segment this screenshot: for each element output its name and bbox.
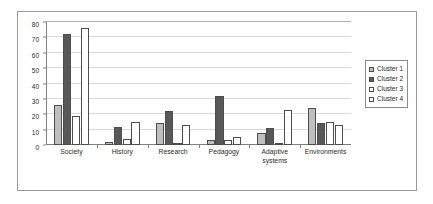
legend-item[interactable]: Cluster 3 [369,84,403,94]
legend-label: Cluster 1 [377,66,403,73]
bar[interactable] [275,143,283,145]
bar[interactable] [335,125,343,145]
bar[interactable] [114,127,122,145]
bar[interactable] [63,34,71,145]
bar-group [46,22,97,145]
chart-legend: Cluster 1Cluster 2Cluster 3Cluster 4 [365,60,408,108]
bar[interactable] [266,128,274,145]
bar[interactable] [326,122,334,145]
y-axis: 01020304050607080 [18,22,46,145]
bar[interactable] [308,108,316,145]
x-tick-label: History [112,148,133,157]
bar[interactable] [105,142,113,145]
x-tick-label: Society [60,148,82,157]
bar[interactable] [123,139,131,145]
bar[interactable] [207,140,215,145]
bar[interactable] [284,110,292,145]
bar-group [249,22,300,145]
x-axis: SocietyHistoryResearchPedagogyAdaptive s… [46,148,351,178]
legend-swatch-icon [369,87,374,92]
bar-group [199,22,250,145]
bar-group [97,22,148,145]
legend-item[interactable]: Cluster 1 [369,64,403,74]
chart-frame: 01020304050607080 SocietyHistoryResearch… [17,11,417,191]
bar[interactable] [182,125,190,145]
legend-swatch-icon [369,97,374,102]
bar[interactable] [173,143,181,145]
bar[interactable] [257,133,265,145]
bars-layer [46,22,351,145]
bar[interactable] [224,140,232,145]
legend-swatch-icon [369,67,374,72]
legend-label: Cluster 4 [377,96,403,103]
legend-item[interactable]: Cluster 2 [369,74,403,84]
chart-screenshot: 01020304050607080 SocietyHistoryResearch… [0,0,433,204]
bar[interactable] [72,116,80,145]
x-tick-label: Environments [305,148,347,157]
bar[interactable] [233,137,241,145]
bar[interactable] [317,123,325,145]
x-tick-label: Pedagogy [209,148,240,157]
legend-label: Cluster 2 [377,76,403,83]
bar[interactable] [54,105,62,145]
legend-label: Cluster 3 [377,86,403,93]
x-tick-label: Research [159,148,188,157]
bar[interactable] [131,122,139,145]
bar-group [148,22,199,145]
x-tick-label: Adaptive systems [262,148,288,165]
bar[interactable] [215,96,223,145]
legend-item[interactable]: Cluster 4 [369,94,403,104]
legend-swatch-icon [369,77,374,82]
bar[interactable] [165,111,173,145]
bar[interactable] [156,123,164,145]
bar[interactable] [81,28,89,145]
bar-group [300,22,351,145]
